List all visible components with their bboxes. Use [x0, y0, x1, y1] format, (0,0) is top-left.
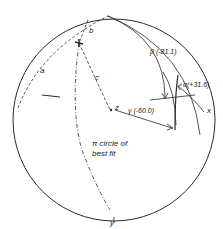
- stereonet-svg: [0, 0, 223, 229]
- label-c: c: [95, 74, 99, 82]
- primitive-circle: [13, 19, 215, 221]
- label-pi-line1: π circle of: [92, 140, 127, 148]
- stereonet-diagram: a b c z x y β (-81.1) γ (-60.0) α(+31.6)…: [0, 0, 223, 229]
- label-gamma: γ (-60.0): [128, 107, 154, 114]
- a-pole-mark: [42, 95, 60, 97]
- label-y: y: [110, 219, 114, 227]
- pi-circle-best-fit: [75, 43, 110, 210]
- curve-2: [175, 75, 178, 130]
- label-beta: β (-81.1): [150, 48, 177, 55]
- label-pi-line2: best fit: [92, 150, 116, 158]
- alpha-arrow: [178, 86, 204, 112]
- z-point: [110, 109, 112, 111]
- label-x: x: [207, 107, 211, 115]
- label-alpha: α(+31.6): [183, 81, 209, 88]
- label-a: a: [40, 67, 44, 75]
- label-z: z: [115, 104, 119, 112]
- pole-marker: [75, 39, 83, 47]
- label-b: b: [89, 27, 93, 35]
- great-circle-beta-2: [108, 16, 200, 135]
